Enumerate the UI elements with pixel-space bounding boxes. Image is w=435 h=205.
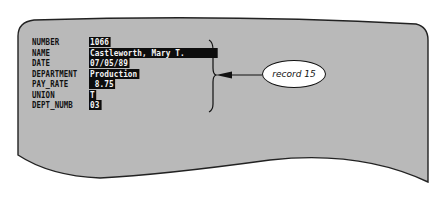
- callout-text: record 15: [272, 69, 315, 79]
- field-value: Castleworth, Mary T.: [89, 48, 218, 58]
- field-value: 07/05/89: [89, 58, 130, 68]
- field-label: DATE: [32, 58, 50, 68]
- field-pay-rate: PAY_RATE 8.75: [32, 79, 53, 89]
- field-value: 1066: [89, 37, 111, 47]
- field-number: NUMBER 1066: [32, 37, 53, 47]
- field-value: Production: [89, 69, 139, 79]
- field-value: 03: [89, 100, 101, 110]
- field-label: DEPARTMENT: [32, 69, 77, 79]
- field-label: NUMBER: [32, 37, 59, 47]
- field-name: NAME Castleworth, Mary T.: [32, 48, 53, 58]
- record-callout: record 15: [262, 60, 326, 88]
- field-union: UNION T: [32, 90, 53, 100]
- field-value: T: [89, 90, 96, 100]
- field-date: DATE 07/05/89: [32, 58, 53, 68]
- field-label: PAY_RATE: [32, 79, 68, 89]
- screen-outline: [18, 18, 428, 182]
- field-value: 8.75: [89, 79, 115, 89]
- field-department: DEPARTMENT Production: [32, 69, 53, 79]
- record-diagram: NUMBER 1066 NAME Castleworth, Mary T. DA…: [0, 0, 435, 205]
- field-label: NAME: [32, 48, 50, 58]
- field-label: UNION: [32, 90, 55, 100]
- field-label: DEPT_NUMB: [32, 100, 73, 110]
- field-dept-numb: DEPT_NUMB 03: [32, 100, 53, 110]
